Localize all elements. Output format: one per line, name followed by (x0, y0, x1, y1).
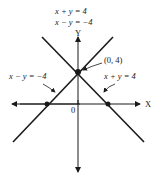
y-axis-label: Y (75, 29, 81, 38)
title-line-1: x + y = 4 (55, 7, 87, 16)
x-intercept-neg (45, 102, 50, 107)
origin-label: 0 (71, 106, 75, 115)
line-label-left: x − y = −4 (9, 72, 47, 81)
leader-right (104, 84, 115, 92)
line-x-plus-y (42, 37, 144, 142)
x-axis-label: X (145, 100, 151, 109)
line-label-right: x + y = 4 (104, 72, 136, 81)
point-label: (0, 4) (104, 56, 122, 65)
leader-left (43, 84, 55, 92)
intersection-point (75, 69, 81, 75)
x-intercept-pos (106, 102, 111, 107)
title-line-2: x − y = −4 (55, 18, 93, 27)
line-x-minus-y (13, 37, 113, 142)
